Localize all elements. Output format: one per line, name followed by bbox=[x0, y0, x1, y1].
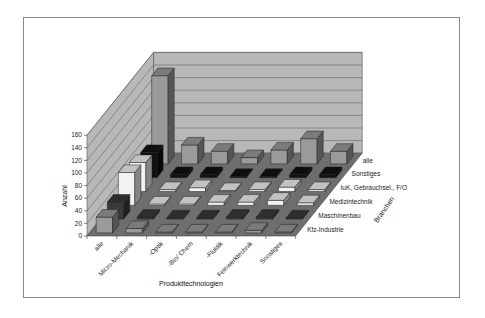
y-tick-label: 160 bbox=[71, 131, 82, 138]
x-category-label: alle bbox=[92, 239, 104, 251]
bar bbox=[271, 142, 294, 164]
bar-front-face bbox=[245, 230, 261, 233]
y-tick-label: 40 bbox=[75, 207, 83, 214]
bar-front-face bbox=[137, 217, 153, 219]
bar-front-face bbox=[271, 150, 287, 164]
x-category-label: -Bio/ Chem bbox=[166, 240, 194, 268]
bar bbox=[331, 144, 354, 164]
bar-front-face bbox=[208, 202, 224, 205]
bar-front-face bbox=[279, 187, 295, 191]
bar-front-face bbox=[189, 188, 205, 192]
y-tick-label: 120 bbox=[71, 157, 82, 164]
bar-chart-3d: 020406080100120140160 alleMicro-Mechanik… bbox=[24, 18, 461, 299]
y-tick-label: 60 bbox=[75, 194, 83, 201]
z-category-label: IuK, Gebrauchsel., F/O bbox=[341, 184, 407, 191]
bar bbox=[301, 131, 324, 164]
y-tick-label: 20 bbox=[75, 220, 83, 227]
bar-front-face bbox=[159, 190, 175, 192]
bar bbox=[211, 144, 234, 164]
bar-front-face bbox=[211, 151, 227, 164]
bar-front-face bbox=[182, 145, 198, 164]
x-category-label: Sonstiges bbox=[258, 239, 284, 265]
x-category-label: -Optik bbox=[147, 239, 165, 257]
z-category-label: Sonstiges bbox=[352, 170, 381, 178]
z-category-label: Kfz-Industrie bbox=[307, 226, 344, 233]
bar-front-face bbox=[267, 200, 283, 205]
bar-front-face bbox=[331, 151, 347, 164]
x-axis: alleMicro-Mechanik-Optik-Bio/ Chem-Fluid… bbox=[87, 236, 296, 278]
bar-front-face bbox=[301, 139, 317, 164]
bar-front-face bbox=[96, 217, 112, 233]
bar-front-face bbox=[170, 175, 186, 178]
bar bbox=[96, 210, 119, 233]
bar-front-face bbox=[256, 217, 272, 219]
bar-front-face bbox=[238, 202, 254, 205]
bar bbox=[182, 137, 205, 164]
y-axis-title: Anzahl bbox=[61, 185, 68, 207]
y-tick-label: 100 bbox=[71, 169, 82, 176]
z-category-label: Maschinenbau bbox=[318, 212, 361, 219]
bar-front-face bbox=[241, 158, 257, 164]
bar-front-face bbox=[290, 175, 306, 178]
chart-frame: 020406080100120140160 alleMicro-Mechanik… bbox=[23, 17, 460, 298]
bar-side-face bbox=[168, 68, 174, 164]
y-tick-label: 0 bbox=[78, 232, 82, 239]
z-category-label: alle bbox=[363, 157, 374, 164]
z-category-label: Medizintechnik bbox=[329, 198, 373, 205]
x-category-label: -Fluidik bbox=[204, 239, 224, 259]
bar-front-face bbox=[200, 175, 216, 178]
bar-front-face bbox=[297, 203, 313, 206]
y-tick-label: 140 bbox=[71, 144, 82, 151]
bar-front-face bbox=[319, 175, 335, 178]
bar-front-face bbox=[249, 190, 265, 192]
bar-front-face bbox=[308, 190, 324, 192]
x-axis-title: Produkttechnologien bbox=[159, 280, 223, 288]
y-tick-label: 80 bbox=[75, 182, 83, 189]
bar-front-face bbox=[126, 229, 142, 233]
y-axis: 020406080100120140160 bbox=[71, 131, 87, 239]
z-axis-title: Branchen bbox=[372, 195, 395, 224]
bar-front-face bbox=[227, 217, 243, 219]
